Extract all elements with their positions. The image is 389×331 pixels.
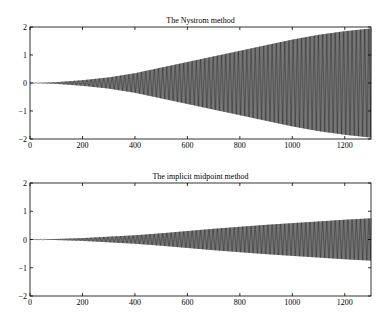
x-tick-label: 0 — [28, 141, 32, 150]
bottom-plot-title: The implicit midpoint method — [152, 172, 248, 181]
axes-box — [30, 183, 371, 296]
x-tick-label: 1200 — [337, 141, 353, 150]
y-tick-label: −1 — [18, 263, 27, 272]
x-tick-label: 200 — [76, 298, 88, 307]
x-tick-label: 800 — [234, 141, 246, 150]
x-tick-label: 600 — [181, 298, 193, 307]
x-tick-label: 600 — [181, 141, 193, 150]
signal-line — [30, 28, 371, 137]
x-tick-label: 800 — [234, 298, 246, 307]
y-tick-label: 2 — [23, 23, 27, 32]
signal-line — [30, 218, 371, 260]
y-tick-label: −1 — [18, 107, 27, 116]
y-tick-label: −2 — [18, 292, 27, 301]
x-tick-label: 1000 — [284, 141, 300, 150]
x-tick-label: 400 — [129, 141, 141, 150]
x-tick-label: 1000 — [284, 298, 300, 307]
plot-canvas — [0, 0, 389, 331]
top-plot-title: The Nystrom method — [166, 16, 234, 25]
y-tick-label: −2 — [18, 135, 27, 144]
x-tick-label: 1200 — [337, 298, 353, 307]
x-tick-label: 200 — [76, 141, 88, 150]
x-tick-label: 0 — [28, 298, 32, 307]
y-tick-label: 1 — [23, 207, 27, 216]
y-tick-label: 0 — [23, 235, 27, 244]
y-tick-label: 1 — [23, 51, 27, 60]
x-tick-label: 400 — [129, 298, 141, 307]
y-tick-label: 2 — [23, 179, 27, 188]
y-tick-label: 0 — [23, 79, 27, 88]
